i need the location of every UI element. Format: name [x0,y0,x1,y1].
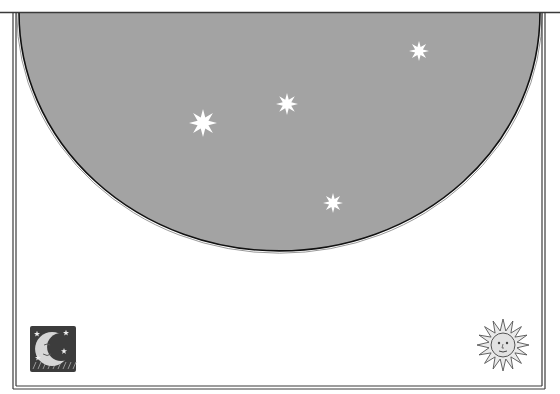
sun-icon [477,319,529,371]
star-upper-right-icon [409,41,429,61]
night-sky-card [0,0,560,394]
sky-fill [19,13,540,251]
star-large-icon [189,109,217,137]
moon-icon [30,326,76,372]
star-medium-icon [276,93,298,115]
sky-dome [17,13,542,253]
card-artwork [0,0,560,394]
star-lower-icon [323,193,343,213]
